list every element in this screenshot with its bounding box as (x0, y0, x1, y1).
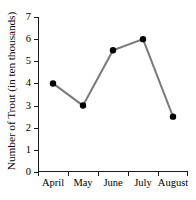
data-point-marker (110, 47, 116, 53)
x-axis-tick-label: June (103, 176, 122, 190)
line-chart-figure: Number of Trout (in ten thousands) 01234… (0, 0, 196, 200)
y-axis-tick-label: 5 (19, 54, 31, 67)
y-axis-tick-label: 3 (19, 99, 31, 112)
y-axis-tick-label: 2 (19, 121, 31, 134)
x-axis-tick-labels: AprilMayJuneJulyAugust (38, 176, 188, 192)
y-axis-tick-label: 6 (19, 32, 31, 45)
data-point-marker (80, 102, 86, 108)
data-point-marker (140, 36, 146, 42)
x-axis-tick-label: August (158, 176, 188, 190)
data-point-marker (170, 113, 176, 119)
x-axis-tick-label: April (42, 176, 64, 190)
y-axis-tick-label: 1 (19, 143, 31, 156)
data-series (38, 17, 188, 172)
y-axis-tick-label: 4 (19, 76, 31, 89)
x-axis-tick-label: July (134, 176, 152, 190)
x-axis-tick-label: May (73, 176, 92, 190)
y-axis-tick-label: 0 (19, 165, 31, 178)
data-point-marker (50, 80, 56, 86)
y-axis-tick-label: 7 (19, 10, 31, 23)
plot-area: 01234567 (38, 17, 188, 172)
